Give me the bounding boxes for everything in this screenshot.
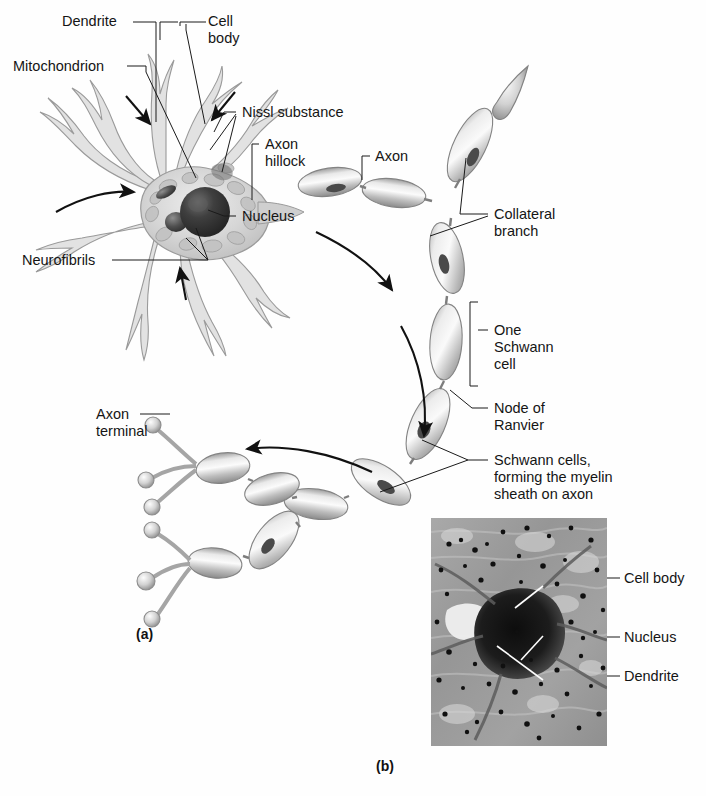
label-schwann-cells-myelin: Schwann cells, forming the myelin sheath… — [494, 452, 612, 503]
label-micro-dendrite: Dendrite — [624, 668, 679, 685]
axon-terminal-bulb — [144, 611, 160, 627]
axon-terminal-bulb — [137, 572, 155, 590]
label-micro-cell-body: Cell body — [624, 570, 684, 587]
leader-cell-body — [186, 24, 205, 124]
panel-label-b: (b) — [376, 758, 394, 774]
myelin-segment — [360, 175, 427, 212]
label-axon-terminal: Axon terminal — [96, 406, 148, 440]
axon-terminal-bulb — [144, 522, 160, 538]
label-micro-nucleus: Nucleus — [624, 629, 676, 646]
myelin-segment — [296, 164, 363, 201]
label-nucleus: Nucleus — [242, 208, 294, 225]
axon-terminal-group — [137, 417, 196, 627]
pointer-arrow-dendrite-left — [126, 96, 150, 124]
leader-axon — [362, 156, 370, 180]
collateral-branch-tip — [493, 66, 528, 119]
nucleolus — [188, 196, 208, 212]
neuron-figure: Dendrite Cell body Mitochondrion Nissl s… — [0, 0, 706, 796]
axon-terminal-bulb — [144, 499, 160, 515]
panel-label-a: (a) — [136, 626, 153, 642]
nucleus-sphere — [180, 187, 230, 237]
leader-node-of-ranvier — [450, 390, 488, 408]
label-cell-body: Cell body — [208, 13, 239, 47]
label-axon: Axon — [375, 148, 408, 165]
direction-arrow — [316, 232, 392, 290]
pointer-arrow-left-curved — [56, 192, 134, 212]
label-mitochondrion: Mitochondrion — [13, 58, 104, 75]
label-collateral-branch: Collateral branch — [494, 206, 555, 240]
leader-cell-body-tick — [180, 22, 206, 26]
myelin-segment — [194, 449, 252, 486]
neuron-micrograph — [431, 518, 607, 746]
myelin-segment-collateral — [438, 102, 502, 188]
myelin-segment — [427, 303, 464, 381]
label-node-of-ranvier: Node of Ranvier — [494, 400, 545, 434]
label-axon-hillock: Axon hillock — [265, 136, 305, 170]
bracket-one-schwann-cell — [470, 302, 478, 386]
impulse-direction-arrows — [247, 232, 425, 472]
label-neurofibrils: Neurofibrils — [22, 252, 95, 269]
leader-dendrite-tick — [160, 22, 178, 40]
label-one-schwann-cell: One Schwann cell — [494, 322, 554, 373]
label-dendrite: Dendrite — [62, 13, 117, 30]
label-nissl-substance: Nissl substance — [242, 104, 344, 121]
axon-terminal-bulb — [138, 472, 154, 488]
myelin-segment — [187, 545, 244, 580]
